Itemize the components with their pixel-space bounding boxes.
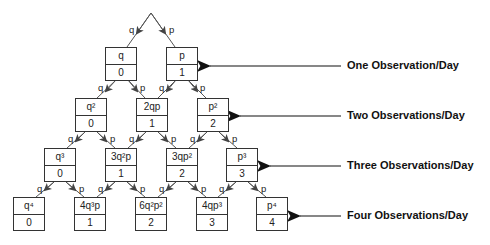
tree-node: q 0 xyxy=(105,47,137,81)
branch-label-p: p xyxy=(140,82,145,93)
tree-node: p³ 3 xyxy=(226,148,258,182)
branch-label-q: q xyxy=(190,133,195,144)
branch-label-p: p xyxy=(201,183,206,194)
branch-label-p: p xyxy=(79,183,84,194)
branch-label-q: q xyxy=(129,133,134,144)
node-probability: p xyxy=(167,48,197,65)
node-probability: 6q²p² xyxy=(136,198,166,215)
tree-node: p 1 xyxy=(166,47,198,81)
node-probability: p² xyxy=(198,99,228,116)
node-probability: p⁴ xyxy=(257,198,287,215)
node-probability: 4q³p xyxy=(75,198,105,215)
tree-node: 3qp² 2 xyxy=(166,148,198,182)
node-probability: q³ xyxy=(45,149,75,166)
tree-node: 6q²p² 2 xyxy=(135,197,167,231)
node-count: 0 xyxy=(14,215,44,231)
observation-label-three: Three Observations/Day xyxy=(347,159,474,171)
tree-node: 4qp³ 3 xyxy=(196,197,228,231)
branch-label-p: p xyxy=(140,183,145,194)
branch-label-p: p xyxy=(169,24,174,35)
node-count: 1 xyxy=(137,116,167,132)
node-count: 2 xyxy=(167,166,197,182)
node-count: 3 xyxy=(197,215,227,231)
node-probability: 3qp² xyxy=(167,149,197,166)
node-count: 1 xyxy=(106,166,136,182)
branch-label-p: p xyxy=(232,133,237,144)
branch-label-q: q xyxy=(159,82,164,93)
branch-label-q: q xyxy=(68,133,73,144)
observation-label-two: Two Observations/Day xyxy=(347,109,465,121)
node-count: 2 xyxy=(136,215,166,231)
node-count: 0 xyxy=(76,116,106,132)
branch-label-p: p xyxy=(110,133,115,144)
node-probability: q² xyxy=(76,99,106,116)
branch-label-p: p xyxy=(171,133,176,144)
tree-node: 2qp 1 xyxy=(136,98,168,132)
node-probability: 2qp xyxy=(137,99,167,116)
node-probability: 4qp³ xyxy=(197,198,227,215)
tree-node: q⁴ 0 xyxy=(13,197,45,231)
node-count: 1 xyxy=(75,215,105,231)
node-count: 2 xyxy=(198,116,228,132)
node-count: 0 xyxy=(45,166,75,182)
branch-label-p: p xyxy=(200,82,205,93)
branch-label-q: q xyxy=(219,183,224,194)
node-count: 0 xyxy=(106,65,136,81)
branch-label-p: p xyxy=(261,183,266,194)
node-probability: q⁴ xyxy=(14,198,44,215)
tree-node: p⁴ 4 xyxy=(256,197,288,231)
tree-node: p² 2 xyxy=(197,98,229,132)
branch-label-q: q xyxy=(37,183,42,194)
observation-label-four: Four Observations/Day xyxy=(347,209,468,221)
branch-label-q: q xyxy=(129,24,134,35)
node-probability: 3q²p xyxy=(106,149,136,166)
tree-node: q³ 0 xyxy=(44,148,76,182)
branch-label-q: q xyxy=(159,183,164,194)
tree-node: 3q²p 1 xyxy=(105,148,137,182)
node-probability: q xyxy=(106,48,136,65)
observation-label-one: One Observation/Day xyxy=(347,59,459,71)
branch-label-q: q xyxy=(98,183,103,194)
node-count: 3 xyxy=(227,166,257,182)
node-probability: p³ xyxy=(227,149,257,166)
node-count: 1 xyxy=(167,65,197,81)
tree-node: 4q³p 1 xyxy=(74,197,106,231)
tree-node: q² 0 xyxy=(75,98,107,132)
node-count: 4 xyxy=(257,215,287,231)
branch-label-q: q xyxy=(98,82,103,93)
